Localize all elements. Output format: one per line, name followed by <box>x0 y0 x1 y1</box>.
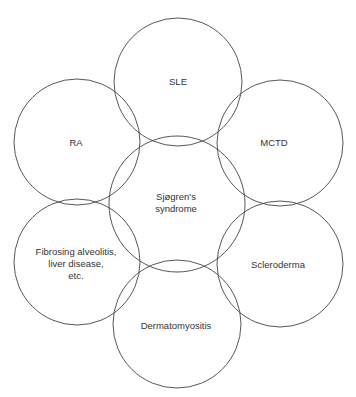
label-sjogren-line2: syndrome <box>155 203 197 215</box>
label-sjogren: Sjøgren's syndrome <box>155 191 197 215</box>
label-fibrosing-line1: Fibrosing alveolitis, <box>36 246 117 258</box>
label-fibrosing-line3: etc. <box>36 270 117 282</box>
label-ra: RA <box>69 137 82 149</box>
label-sle: SLE <box>169 76 187 88</box>
label-fibrosing-line2: liver disease, <box>36 258 117 270</box>
label-sjogren-line1: Sjøgren's <box>155 191 197 203</box>
label-fibrosing: Fibrosing alveolitis, liver disease, etc… <box>36 246 117 282</box>
label-mctd: MCTD <box>260 137 287 149</box>
label-dermatomyositis: Dermatomyositis <box>141 320 212 332</box>
label-scleroderma: Scleroderma <box>251 259 305 271</box>
